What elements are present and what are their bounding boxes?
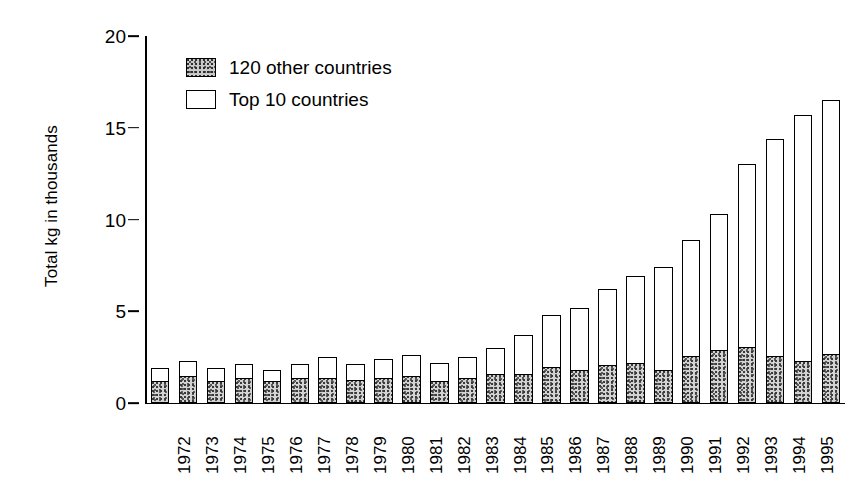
y-axis-tick-label: 10	[66, 210, 126, 229]
bar-segment-other-countries	[626, 363, 645, 403]
bar-1991	[682, 240, 701, 403]
x-axis-tick-label: 1992	[735, 436, 752, 474]
bar-segment-top-10-countries	[794, 115, 813, 362]
bar-segment-other-countries	[458, 377, 477, 403]
x-axis-tick-label: 1979	[372, 436, 389, 474]
bar-segment-top-10-countries	[374, 359, 393, 379]
legend-entry-other-countries: 120 other countries	[186, 54, 392, 81]
bar-segment-top-10-countries	[654, 267, 673, 371]
bar-1980	[374, 359, 393, 403]
bar-segment-top-10-countries	[486, 348, 505, 375]
x-axis-tick-label: 1977	[316, 436, 333, 474]
x-axis-tick-label: 1994	[791, 436, 808, 474]
bar-segment-other-countries	[570, 370, 589, 403]
x-axis-tick-label: 1987	[595, 436, 612, 474]
bar-segment-other-countries	[430, 381, 449, 403]
bar-1984	[486, 348, 505, 403]
bar-segment-top-10-countries	[151, 368, 170, 382]
bar-1993	[738, 164, 757, 403]
bar-segment-top-10-countries	[207, 368, 226, 382]
bar-segment-top-10-countries	[179, 361, 198, 377]
bar-segment-other-countries	[374, 377, 393, 403]
bar-segment-top-10-countries	[822, 100, 841, 355]
legend-label-other-countries: 120 other countries	[229, 58, 392, 77]
y-axis-tick-label: 15	[66, 118, 126, 137]
y-axis-tick-mark	[128, 219, 139, 221]
bar-segment-other-countries	[291, 377, 310, 403]
x-axis-tick-label: 1976	[288, 436, 305, 474]
bar-segment-top-10-countries	[402, 355, 421, 377]
x-axis-tick-label: 1978	[344, 436, 361, 474]
bar-segment-other-countries	[263, 381, 282, 403]
legend-swatch-top-10-countries-icon	[186, 90, 216, 109]
x-axis-tick-label: 1985	[539, 436, 556, 474]
bar-segment-other-countries	[542, 366, 561, 403]
x-axis-tick-label: 1988	[623, 436, 640, 474]
legend-label-top-10-countries: Top 10 countries	[229, 90, 368, 109]
y-axis-tick-mark	[128, 402, 139, 404]
legend-entry-top-10-countries: Top 10 countries	[186, 86, 392, 113]
bar-1977	[291, 364, 310, 403]
bar-segment-other-countries	[598, 364, 617, 403]
bar-segment-other-countries	[179, 375, 198, 403]
bar-1979	[346, 364, 365, 403]
y-axis-tick-mark	[128, 127, 139, 129]
bar-segment-top-10-countries	[458, 357, 477, 379]
x-axis-tick-label: 1993	[763, 436, 780, 474]
bar-segment-top-10-countries	[766, 139, 785, 357]
x-axis-tick-label: 1973	[204, 436, 221, 474]
bar-1989	[626, 276, 645, 403]
bar-segment-other-countries	[766, 355, 785, 403]
y-axis-tick-label: 20	[66, 27, 126, 46]
bar-segment-other-countries	[235, 377, 254, 403]
bar-segment-other-countries	[318, 377, 337, 403]
bar-1995	[794, 115, 813, 403]
x-axis-tick-label: 1995	[819, 436, 836, 474]
bar-segment-top-10-countries	[738, 164, 757, 347]
bar-1981	[402, 355, 421, 403]
bar-1996	[822, 100, 841, 403]
y-axis-title: Total kg in thousands	[42, 26, 62, 386]
bar-1987	[570, 308, 589, 403]
bar-segment-top-10-countries	[710, 214, 729, 351]
x-axis-tick-labels: 1972197319741975197619771978197919801981…	[146, 406, 845, 481]
bar-segment-other-countries	[207, 381, 226, 403]
bar-1974	[207, 368, 226, 403]
x-axis-tick-label: 1982	[456, 436, 473, 474]
y-axis-ticks: 05101520	[60, 0, 146, 481]
x-axis-tick-label: 1984	[512, 436, 529, 474]
x-axis-tick-label: 1983	[484, 436, 501, 474]
legend-swatch-other-countries-icon	[186, 58, 216, 77]
bar-segment-other-countries	[710, 350, 729, 403]
x-axis-tick-label: 1972	[176, 436, 193, 474]
bar-segment-other-countries	[822, 353, 841, 403]
bar-segment-top-10-countries	[346, 364, 365, 380]
bar-1986	[542, 315, 561, 403]
bar-segment-top-10-countries	[598, 289, 617, 366]
bar-segment-top-10-countries	[235, 364, 254, 378]
bar-1994	[766, 139, 785, 403]
x-axis-tick-label: 1980	[400, 436, 417, 474]
bar-1983	[458, 357, 477, 403]
bar-segment-other-countries	[682, 355, 701, 403]
bar-segment-top-10-countries	[682, 240, 701, 357]
y-axis-tick-label: 0	[66, 394, 126, 413]
x-axis-tick-label: 1989	[651, 436, 668, 474]
bar-segment-other-countries	[402, 375, 421, 403]
bar-segment-other-countries	[151, 381, 170, 403]
x-axis-tick-label: 1981	[428, 436, 445, 474]
bar-1985	[514, 335, 533, 403]
bar-segment-top-10-countries	[542, 315, 561, 368]
bar-segment-top-10-countries	[626, 276, 645, 364]
bar-1992	[710, 214, 729, 403]
bar-segment-other-countries	[654, 370, 673, 403]
bar-1982	[430, 363, 449, 403]
bar-segment-other-countries	[514, 374, 533, 403]
y-axis-tick-mark	[128, 310, 139, 312]
bar-segment-top-10-countries	[318, 357, 337, 379]
x-axis-tick-label: 1974	[232, 436, 249, 474]
bar-segment-top-10-countries	[514, 335, 533, 375]
bar-1976	[263, 370, 282, 403]
bar-1988	[598, 289, 617, 403]
x-axis-tick-label: 1991	[707, 436, 724, 474]
